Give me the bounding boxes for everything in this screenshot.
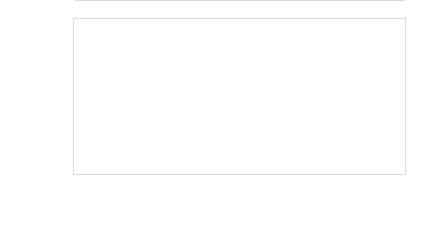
zero-gridline	[74, 0, 405, 1]
data-points-band	[73, 18, 406, 175]
residual-rank-chart	[0, 0, 426, 229]
